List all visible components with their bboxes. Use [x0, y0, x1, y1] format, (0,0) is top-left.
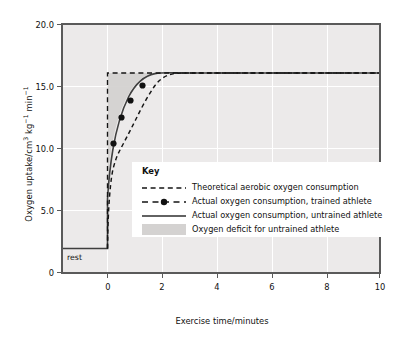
legend-label-untrained: Actual oxygen consumption, untrained ath… — [192, 210, 382, 220]
x-axis-title: Exercise time/minutes — [62, 316, 382, 326]
legend-items: Theoretical aerobic oxygen consumption A… — [138, 180, 384, 236]
legend-label-deficit: Oxygen deficit for untrained athlete — [192, 224, 339, 234]
legend-item-theoretical: Theoretical aerobic oxygen consumption — [138, 180, 384, 194]
bottom-caption — [0, 333, 404, 340]
legend-label-trained: Actual oxygen consumption, trained athle… — [192, 196, 372, 206]
legend-label-theoretical: Theoretical aerobic oxygen consumption — [192, 182, 359, 192]
data-point-marker — [110, 140, 116, 146]
dashed-line-with-marker-icon — [138, 194, 192, 208]
legend-item-trained: Actual oxygen consumption, trained athle… — [138, 194, 384, 208]
solid-line-icon — [138, 208, 192, 222]
data-point-marker — [118, 114, 124, 120]
legend-title: Key — [142, 166, 159, 176]
legend-item-deficit: Oxygen deficit for untrained athlete — [138, 222, 384, 236]
legend-item-untrained: Actual oxygen consumption, untrained ath… — [138, 208, 384, 222]
data-point-marker — [139, 82, 145, 88]
data-point-marker — [127, 97, 133, 103]
chart-figure: Oxygen uptake/cm3 kg−1 min−1 20.0 15.0 1… — [0, 0, 404, 340]
dashed-line-icon — [138, 180, 192, 194]
chart-legend: Key Theoretical aerobic oxygen consumpti… — [132, 162, 384, 237]
shaded-swatch-icon — [138, 222, 192, 236]
rest-annotation-label: rest — [67, 253, 82, 262]
